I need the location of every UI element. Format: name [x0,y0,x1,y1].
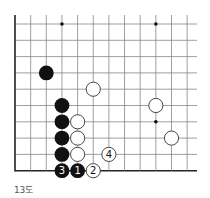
move-number: 1 [74,165,80,176]
white-stone [164,131,178,145]
black-stone [55,98,70,113]
star-point-icon [60,22,64,26]
white-stone-move-4: 4 [102,147,116,161]
black-stone [55,147,70,162]
white-stone-move-2: 2 [86,164,100,178]
black-stone [55,114,70,129]
white-stone [149,98,163,112]
diagram-caption: 13도 [14,183,33,196]
move-number: 3 [59,165,65,176]
move-number: 4 [106,149,112,160]
white-stone [71,131,85,145]
white-stone [71,147,85,161]
black-stone-move-3: 3 [55,163,70,178]
black-stone-move-1: 1 [70,163,85,178]
move-number: 2 [90,165,96,176]
star-point-icon [154,22,158,26]
white-stone [86,82,100,96]
star-point-icon [154,120,158,124]
go-board-diagram: 4312 [0,0,210,182]
black-stone [55,131,70,146]
white-stone [71,115,85,129]
black-stone [39,66,54,81]
